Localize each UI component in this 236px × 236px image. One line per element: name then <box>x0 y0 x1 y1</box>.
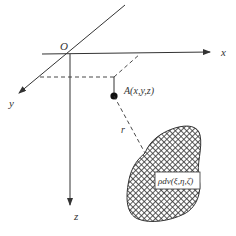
distance-r-label: r <box>121 124 125 135</box>
point-a-label: A(x,y,z) <box>123 85 155 97</box>
potential-diagram: O x y z A(x,y,z) r ρdv(ξ,η,ζ) <box>0 0 236 236</box>
volume-element-label: ρdv(ξ,η,ζ) <box>157 176 193 186</box>
z-axis-label: z <box>73 210 79 222</box>
y-axis-label: y <box>8 97 14 109</box>
origin-label: O <box>60 40 68 52</box>
distance-r-line <box>114 96 145 153</box>
y-axis <box>19 5 125 93</box>
projection-dashed-x <box>114 54 140 77</box>
x-axis-label: x <box>220 46 226 58</box>
